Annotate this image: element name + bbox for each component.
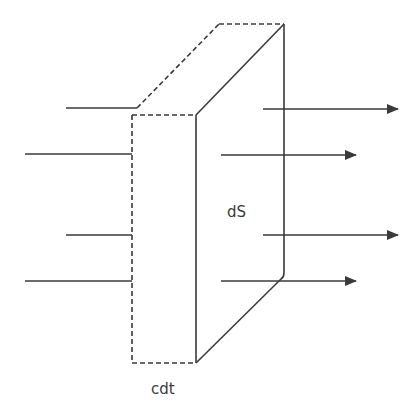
- slab-visible-edges: [196, 24, 284, 363]
- bottom-right-depth-edge: [196, 273, 284, 363]
- slab-flux-diagram: dS cdt: [0, 0, 414, 415]
- incoming-rays: [25, 108, 137, 281]
- outgoing-rays: [221, 109, 398, 281]
- slab-hidden-edges: [132, 24, 284, 363]
- thickness-label: cdt: [151, 380, 175, 398]
- top-right-depth-edge: [196, 24, 284, 115]
- top-left-depth-edge: [137, 24, 219, 108]
- surface-label: dS: [227, 203, 246, 221]
